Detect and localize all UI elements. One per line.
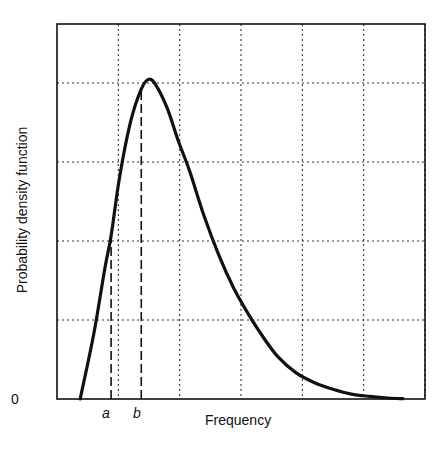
y-tick-zero: 0 xyxy=(11,391,19,407)
grid-lines xyxy=(57,24,425,399)
x-tick-a: a xyxy=(102,405,110,421)
x-axis-label: Frequency xyxy=(205,412,271,428)
y-axis-label: Probability density function xyxy=(14,127,30,294)
chart-plot xyxy=(0,0,447,451)
x-tick-b: b xyxy=(133,405,141,421)
pdf-curve xyxy=(80,79,403,399)
